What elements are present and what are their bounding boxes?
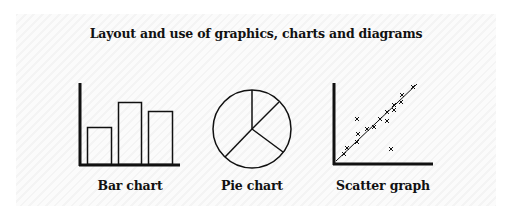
pie-chart: [213, 90, 291, 168]
bar-2: [119, 103, 142, 165]
pie-divider: [225, 129, 252, 157]
pie-chart-caption: Pie chart: [202, 178, 302, 193]
scatter-graph-caption: Scatter graph: [330, 178, 436, 193]
bar-1: [88, 128, 112, 165]
pie-divider: [252, 129, 283, 152]
pie-divider: [252, 102, 279, 129]
bar-chart-caption: Bar chart: [80, 178, 180, 193]
scatter-graph: [333, 83, 433, 165]
bar-3: [149, 112, 173, 165]
bar-chart: [79, 83, 180, 166]
